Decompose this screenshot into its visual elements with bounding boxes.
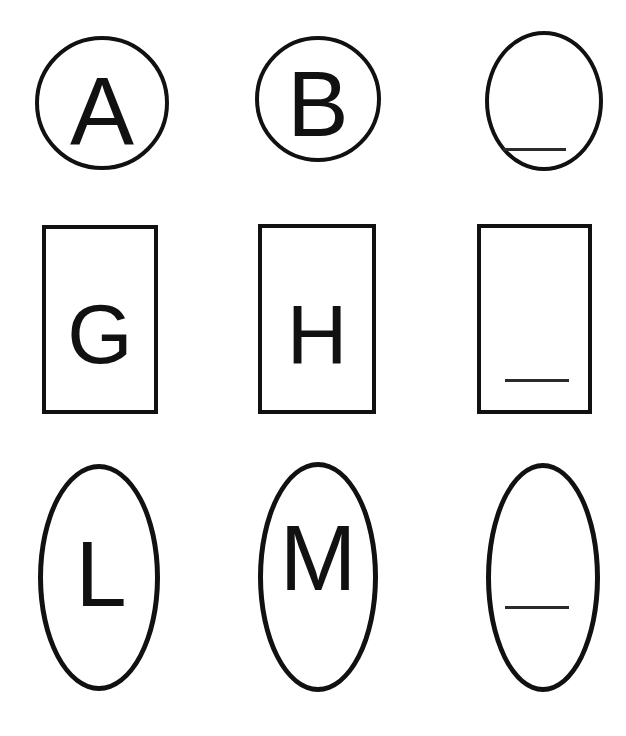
letter-glyph: L — [46, 528, 156, 620]
letter-glyph: G — [42, 292, 158, 376]
letter-glyph: M — [258, 512, 378, 604]
rectangle-shape — [477, 224, 592, 414]
answer-line[interactable] — [503, 148, 566, 151]
letter-glyph: H — [258, 293, 376, 377]
letter-glyph: A — [35, 63, 169, 159]
answer-line[interactable] — [505, 379, 569, 382]
letter-glyph: B — [255, 58, 381, 150]
oval-shape — [486, 463, 600, 692]
worksheet-canvas: A B G H — [0, 0, 626, 736]
answer-line[interactable] — [505, 606, 569, 609]
